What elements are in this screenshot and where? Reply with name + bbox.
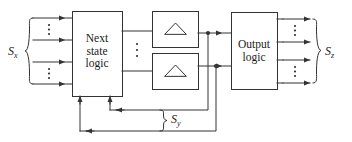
output-signal-label: Sz xyxy=(325,44,334,60)
state-signal-subscript: y xyxy=(177,119,181,128)
block-output-logic[interactable] xyxy=(232,13,278,90)
nsl-output-dots xyxy=(136,55,138,57)
nsl-output-dots xyxy=(136,49,138,51)
state-signal-label: Sy xyxy=(171,112,181,128)
input-dots-lower xyxy=(48,72,50,74)
input-dots-lower xyxy=(48,77,50,79)
input-signal-subscript: x xyxy=(14,51,18,60)
output-dots-lower xyxy=(294,70,296,72)
block-next-state-logic[interactable] xyxy=(73,12,123,97)
output-dots-upper xyxy=(294,29,296,31)
output-dots-upper xyxy=(294,25,296,27)
junction-dot-lower xyxy=(214,64,218,68)
input-dots-upper xyxy=(48,33,50,35)
nsl-output-dots xyxy=(136,43,138,45)
block-flipflop-top[interactable] xyxy=(153,12,199,48)
output-dots-upper xyxy=(294,34,296,36)
block-flipflop-bottom[interactable] xyxy=(153,54,199,90)
output-brace xyxy=(313,19,321,83)
input-dots-upper xyxy=(48,24,50,26)
block-diagram-canvas: Next state logic Output logic Sx Sz Sy xyxy=(0,0,352,142)
output-dots-lower xyxy=(294,66,296,68)
output-dots-lower xyxy=(294,75,296,77)
junction-dot-upper xyxy=(206,31,210,35)
state-bus-brace xyxy=(160,110,167,131)
input-brace xyxy=(25,18,33,84)
output-signal-subscript: z xyxy=(331,51,334,60)
input-dots-upper xyxy=(48,28,50,30)
input-signal-label: Sx xyxy=(8,44,18,60)
input-dots-lower xyxy=(48,68,50,70)
